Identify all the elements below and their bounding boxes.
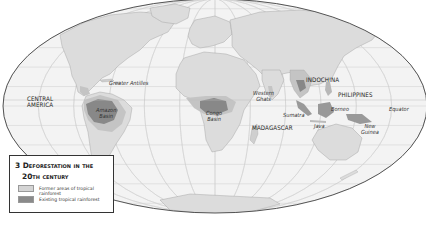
label-congo-basin: Congo Basin [206, 111, 222, 122]
label-western-ghats-line2: Ghats [253, 97, 274, 103]
legend-title-line1: 3 Deforestation in the [15, 161, 93, 170]
label-amazon-line2: Basin [96, 114, 116, 120]
label-central-america: CENTRAL AMERICA [27, 96, 53, 108]
map-legend: 3 Deforestation in the 20th century Form… [9, 155, 114, 213]
label-sumatra: Sumatra [283, 113, 305, 119]
label-borneo: Borneo [331, 107, 349, 113]
label-equator: Equator [389, 107, 409, 113]
label-western-ghats: Western Ghats [253, 91, 274, 102]
label-congo-line2: Basin [206, 117, 222, 123]
label-greater-antilles: Greater Antilles [109, 81, 148, 87]
legend-swatch-existing [18, 196, 34, 203]
label-indochina: INDOCHINA [306, 77, 339, 83]
label-philippines: PHILIPPINES [338, 92, 373, 98]
legend-label-former: Former areas of tropical rainforest [39, 186, 113, 196]
label-new-guinea-line2: Guinea [361, 130, 379, 136]
legend-title-line2: 20th century [22, 172, 68, 181]
label-new-guinea: New Guinea [361, 124, 379, 135]
label-amazon-basin: Amazon Basin [96, 108, 116, 119]
legend-swatch-former [18, 185, 34, 192]
label-central-america-line2: AMERICA [27, 102, 53, 108]
legend-label-existing: Existing tropical rainforest [39, 197, 99, 202]
label-java: Java [314, 124, 325, 130]
label-madagascar: MADAGASCAR [252, 125, 293, 131]
